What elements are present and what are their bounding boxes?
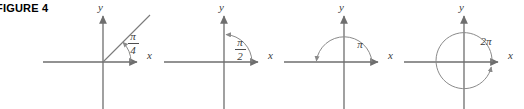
- x-axis-label: x: [387, 49, 393, 61]
- panel-pi-over-4-canvas: π 4 x y: [43, 0, 163, 109]
- angle-label-text: 2π: [480, 35, 492, 47]
- panel-pi-over-4: π 4 x y: [43, 0, 163, 109]
- angle-label-denominator: 2: [237, 50, 243, 62]
- figure-root: FIGURE 4 π: [0, 0, 524, 109]
- x-axis-label: x: [267, 49, 273, 61]
- angle-label-denominator: 4: [130, 44, 136, 56]
- panel-two-pi: 2π x y: [404, 0, 524, 109]
- angle-label-numerator: π: [237, 36, 243, 48]
- y-axis-label: y: [97, 1, 103, 13]
- panel-pi: π x y: [284, 0, 404, 109]
- terminal-ray: [103, 15, 150, 62]
- panel-pi-over-2: π 2 x y: [164, 0, 284, 109]
- y-axis-label: y: [458, 1, 464, 13]
- angle-label: π: [357, 38, 363, 50]
- figure-caption: FIGURE 4: [0, 2, 48, 14]
- angle-label: 2π: [480, 35, 492, 47]
- panel-pi-over-2-canvas: π 2 x y: [164, 0, 284, 109]
- angle-label-numerator: π: [130, 30, 136, 42]
- angle-label: π 4: [128, 30, 139, 56]
- panel-two-pi-canvas: 2π x y: [404, 0, 524, 109]
- x-axis-label: x: [146, 49, 152, 61]
- panel-pi-canvas: π x y: [284, 0, 404, 109]
- y-axis-label: y: [218, 1, 224, 13]
- x-axis-label: x: [507, 49, 513, 61]
- y-axis-label: y: [338, 1, 344, 13]
- angle-label: π 2: [235, 36, 246, 62]
- angle-label-text: π: [357, 38, 363, 50]
